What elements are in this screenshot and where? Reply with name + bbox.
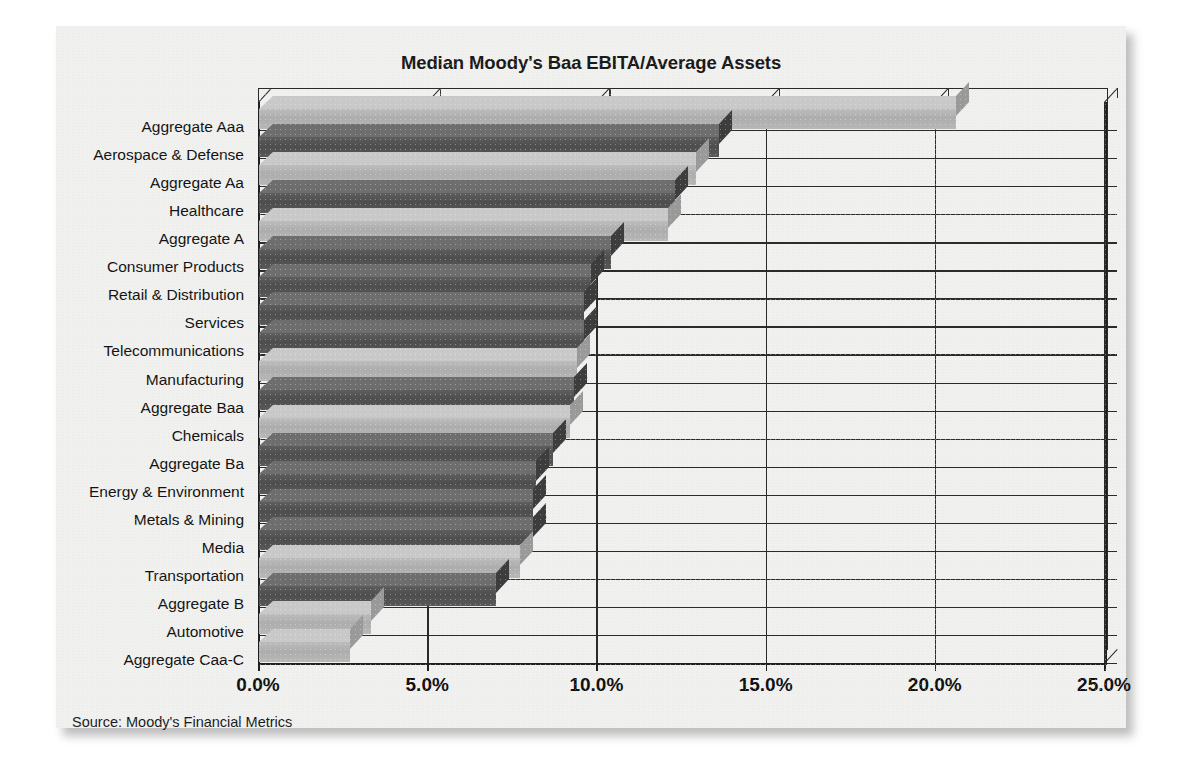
bar-top-face: [259, 264, 605, 277]
x-axis-tick-label: 0.0%: [236, 674, 279, 696]
category-label: Aggregate B: [56, 596, 244, 612]
category-label: Aggregate A: [56, 231, 244, 247]
gridline-vertical-back: [1117, 88, 1118, 98]
category-label: Aggregate Aaa: [56, 119, 244, 135]
bar-top-face: [259, 601, 385, 614]
category-label: Healthcare: [56, 203, 244, 219]
scanned-chart-page: Median Moody's Baa EBITA/Average Assets …: [56, 26, 1126, 728]
bar-front-face: [259, 642, 350, 662]
bar-top-face: [259, 236, 625, 249]
bar-top-face: [259, 433, 567, 446]
bar-top-face: [259, 517, 547, 530]
chart-plot-area: Aggregate AaaAerospace & DefenseAggregat…: [56, 26, 1126, 728]
category-label: Transportation: [56, 568, 244, 584]
category-label: Manufacturing: [56, 372, 244, 388]
category-label: Telecommunications: [56, 343, 244, 359]
category-label: Aggregate Aa: [56, 175, 244, 191]
category-label: Metals & Mining: [56, 512, 244, 528]
bar-top-face: [259, 348, 591, 361]
plot-depth-edge: [1104, 88, 1118, 103]
bar-top-face: [259, 377, 588, 390]
category-label: Retail & Distribution: [56, 287, 244, 303]
x-axis-tick-label: 25.0%: [1077, 674, 1131, 696]
category-label: Media: [56, 540, 244, 556]
category-label: Aerospace & Defense: [56, 147, 244, 163]
x-axis-tick-label: 20.0%: [908, 674, 962, 696]
source-note: Source: Moody's Financial Metrics: [72, 714, 292, 730]
bar-top-face: [259, 320, 598, 333]
bar-top-face: [259, 152, 709, 165]
category-label: Aggregate Baa: [56, 400, 244, 416]
category-label: Automotive: [56, 624, 244, 640]
bar-top-face: [259, 545, 534, 558]
bar: [259, 642, 350, 662]
bar-top-face: [259, 124, 733, 137]
category-label: Consumer Products: [56, 259, 244, 275]
category-label: Aggregate Caa-C: [56, 652, 244, 668]
bar-top-face: [259, 573, 510, 586]
x-axis-tick-label: 10.0%: [569, 674, 623, 696]
bar-top-face: [259, 489, 547, 502]
x-axis-tick-label: 5.0%: [406, 674, 449, 696]
category-label: Chemicals: [56, 428, 244, 444]
bar-top-face: [259, 629, 364, 642]
bar-top-face: [259, 461, 550, 474]
category-label: Energy & Environment: [56, 484, 244, 500]
bar-top-face: [259, 405, 584, 418]
screenshot-page: Median Moody's Baa EBITA/Average Assets …: [0, 0, 1188, 782]
bar-top-face: [259, 96, 970, 109]
category-label: Aggregate Ba: [56, 456, 244, 472]
bar-top-face: [259, 292, 598, 305]
x-axis-tick-label: 15.0%: [739, 674, 793, 696]
bar-top-face: [259, 180, 689, 193]
bar-top-face: [259, 208, 682, 221]
category-label: Services: [56, 315, 244, 331]
